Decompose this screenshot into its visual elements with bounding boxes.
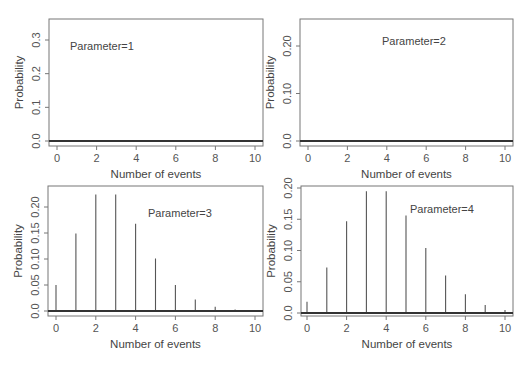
- y-tick-label: 0.10: [281, 83, 293, 104]
- y-tick-label: 0.05: [29, 274, 41, 295]
- x-tick-label: 8: [462, 322, 468, 334]
- x-tick-label: 4: [384, 152, 390, 164]
- y-tick-label: 0.20: [29, 196, 41, 217]
- plot-frame: [49, 19, 263, 146]
- x-tick-label: 2: [93, 322, 99, 334]
- y-tick-label: 0.1: [30, 100, 42, 115]
- chart-panel-3: 02468100.00.050.100.150.20Number of even…: [12, 186, 263, 350]
- y-tick-label: 0.20: [282, 177, 294, 198]
- y-tick-label: 0.0: [29, 303, 41, 318]
- plot-frame: [301, 186, 513, 316]
- x-tick-label: 0: [53, 322, 59, 334]
- y-axis-label: Probability: [12, 224, 24, 278]
- chart-panel-1: 02468100.00.10.20.3Number of eventsProba…: [13, 19, 263, 180]
- x-tick-label: 10: [249, 152, 261, 164]
- y-tick-label: 0.0: [281, 133, 293, 148]
- x-tick-label: 0: [304, 322, 310, 334]
- x-tick-label: 2: [344, 152, 350, 164]
- y-tick-label: 0.10: [282, 240, 294, 261]
- x-axis-label: Number of events: [362, 338, 453, 350]
- x-axis-label: Number of events: [111, 168, 202, 180]
- x-tick-label: 6: [172, 322, 178, 334]
- x-axis-label: Number of events: [110, 338, 201, 350]
- x-tick-label: 2: [344, 322, 350, 334]
- parameter-annotation: Parameter=4: [410, 203, 474, 215]
- x-axis-label: Number of events: [361, 168, 452, 180]
- chart-panel-2: 02468100.00.100.20Number of eventsProbab…: [264, 19, 513, 180]
- x-tick-label: 8: [463, 152, 469, 164]
- x-tick-label: 8: [212, 322, 218, 334]
- x-tick-label: 4: [383, 322, 389, 334]
- parameter-annotation: Parameter=1: [70, 40, 134, 52]
- x-tick-label: 6: [423, 152, 429, 164]
- y-tick-label: 0.05: [282, 271, 294, 292]
- y-axis-label: Probability: [264, 55, 276, 109]
- x-tick-label: 4: [133, 152, 139, 164]
- y-tick-label: 0.15: [282, 209, 294, 230]
- x-tick-label: 10: [249, 322, 261, 334]
- parameter-annotation: Parameter=3: [148, 207, 212, 219]
- x-tick-label: 8: [212, 152, 218, 164]
- x-tick-label: 4: [133, 322, 139, 334]
- y-axis-label: Probability: [265, 224, 277, 278]
- x-tick-label: 2: [94, 152, 100, 164]
- y-tick-label: 0.0: [30, 133, 42, 148]
- poisson-charts: 02468100.00.10.20.3Number of eventsProba…: [0, 0, 530, 368]
- x-tick-label: 10: [499, 322, 511, 334]
- y-axis-label: Probability: [13, 55, 25, 109]
- x-tick-label: 0: [305, 152, 311, 164]
- y-tick-label: 0.15: [29, 222, 41, 243]
- x-tick-label: 6: [173, 152, 179, 164]
- y-tick-label: 0.3: [30, 32, 42, 47]
- y-tick-label: 0.0: [282, 305, 294, 320]
- y-tick-label: 0.2: [30, 66, 42, 81]
- chart-panel-4: 02468100.00.050.100.150.20Number of even…: [265, 177, 513, 350]
- x-tick-label: 6: [423, 322, 429, 334]
- parameter-annotation: Parameter=2: [382, 35, 446, 47]
- x-tick-label: 0: [54, 152, 60, 164]
- y-tick-label: 0.10: [29, 248, 41, 269]
- x-tick-label: 10: [499, 152, 511, 164]
- y-tick-label: 0.20: [281, 35, 293, 56]
